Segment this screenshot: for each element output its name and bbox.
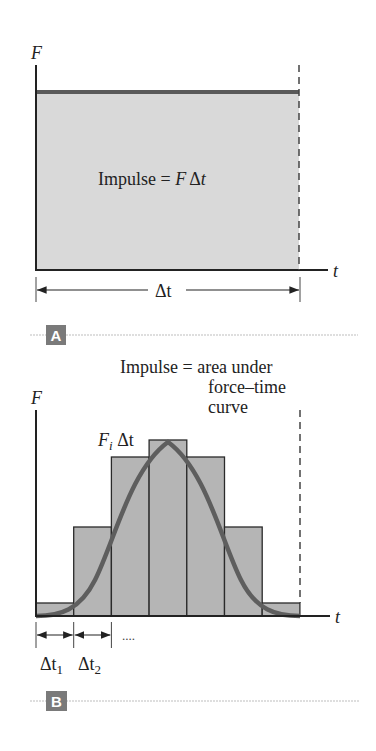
impulse-label: Impulse = FΔt	[98, 169, 207, 189]
impulse-diagram: F t Impulse = FΔt Δt A Impulse = area un…	[0, 0, 376, 751]
badge-b-label: B	[51, 693, 62, 710]
bar-label: Fi Δt	[97, 430, 134, 453]
panel-a: F t Impulse = FΔt Δt A	[30, 43, 358, 345]
bar-5	[187, 457, 225, 616]
bar-4	[149, 440, 187, 616]
bar-3	[111, 457, 149, 616]
badge-a-label: A	[51, 327, 62, 344]
y-axis-label: F	[30, 43, 43, 63]
x-axis-label: t	[333, 261, 339, 281]
approximation-bars	[36, 440, 300, 616]
caption-line-3: curve	[208, 397, 248, 417]
panel-b: Impulse = area under force–time curve F …	[30, 357, 360, 711]
caption-line-2: force–time	[208, 377, 286, 397]
caption-line-1: Impulse = area under	[120, 357, 273, 377]
interval-label: Δt	[155, 281, 172, 301]
y-axis-label-b: F	[30, 388, 43, 408]
ellipsis: ....	[122, 628, 135, 643]
interval-label-2: Δt2	[78, 654, 101, 677]
x-axis-label-b: t	[335, 607, 341, 627]
interval-label-1: Δt1	[40, 654, 63, 677]
